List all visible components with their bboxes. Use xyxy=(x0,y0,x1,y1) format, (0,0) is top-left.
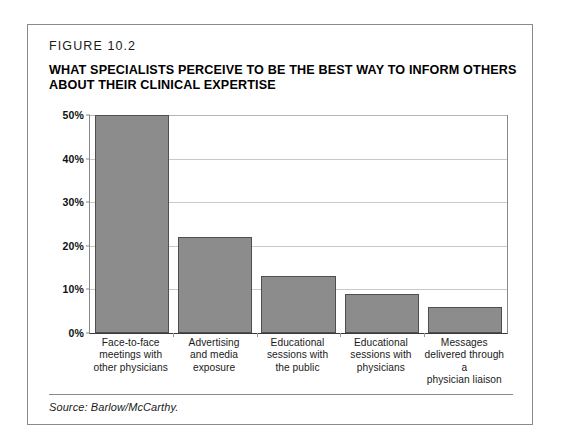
x-axis-category-label: Educationalsessions withphysicians xyxy=(339,337,422,374)
y-axis-tick-label-50: 50% xyxy=(62,109,84,121)
y-axis-tick-label-30: 30% xyxy=(62,196,84,208)
bar[interactable] xyxy=(178,237,252,333)
bar[interactable] xyxy=(428,307,502,333)
bar-slot xyxy=(173,115,256,333)
category-label-line: Educational xyxy=(256,337,339,349)
x-axis-category-label: Messagesdelivered through aphysician lia… xyxy=(423,337,506,387)
x-axis-category-label: Educationalsessions withthe public xyxy=(256,337,339,374)
category-label-line: delivered through a xyxy=(423,349,506,374)
bar-slot xyxy=(340,115,423,333)
category-label-line: exposure xyxy=(172,362,255,374)
chart-plot-area: 0%10%20%30%40%50% xyxy=(89,115,508,334)
category-label-line: Face-to-face xyxy=(89,337,172,349)
bar-slot xyxy=(257,115,340,333)
bar-slot xyxy=(90,115,173,333)
y-axis-tick-label-20: 20% xyxy=(62,240,84,252)
category-label-line: physician liaison xyxy=(423,374,506,386)
category-label-line: Messages xyxy=(423,337,506,349)
bar[interactable] xyxy=(345,294,419,333)
category-label-line: Educational xyxy=(339,337,422,349)
chart-plot-wrapper: 0%10%20%30%40%50% Face-to-facemeetings w… xyxy=(28,25,534,426)
category-label-line: other physicians xyxy=(89,362,172,374)
bar[interactable] xyxy=(261,276,335,333)
y-axis-tick-label-0: 0% xyxy=(68,327,84,339)
category-label-line: physicians xyxy=(339,362,422,374)
figure-panel: FIGURE 10.2 WHAT SPECIALISTS PERCEIVE TO… xyxy=(27,24,533,425)
y-axis-tick-label-40: 40% xyxy=(62,153,84,165)
bar[interactable] xyxy=(95,115,169,333)
x-axis-category-label: Advertisingand mediaexposure xyxy=(172,337,255,374)
bar-slot xyxy=(424,115,507,333)
category-label-line: the public xyxy=(256,362,339,374)
category-label-line: sessions with xyxy=(339,349,422,361)
category-label-line: sessions with xyxy=(256,349,339,361)
x-axis-category-label: Face-to-facemeetings withother physician… xyxy=(89,337,172,374)
y-axis-tick-label-10: 10% xyxy=(62,283,84,295)
source-note: Source: Barlow/McCarthy. xyxy=(49,401,178,413)
category-label-line: Advertising xyxy=(172,337,255,349)
category-label-line: meetings with xyxy=(89,349,172,361)
chart-bars xyxy=(90,115,507,333)
category-label-line: and media xyxy=(172,349,255,361)
source-divider xyxy=(49,394,513,395)
